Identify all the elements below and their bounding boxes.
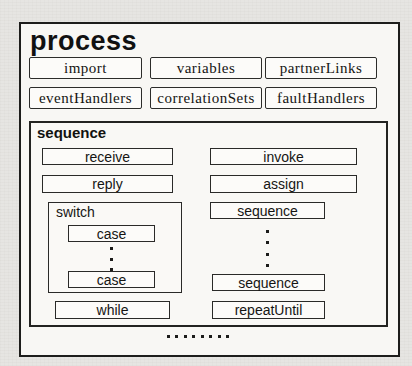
sequence-container: sequence receive invoke reply assign swi… [29, 121, 388, 327]
repeatuntil-box: repeatUntil [212, 301, 325, 319]
switch-label: switch [56, 204, 95, 221]
case-box-top: case [68, 225, 155, 242]
process-container: process import variables partnerLinks ev… [19, 22, 400, 357]
process-title: process [30, 24, 137, 57]
horizontal-ellipsis-icon [167, 334, 229, 339]
while-box: while [55, 301, 170, 319]
inner-sequence-box-top: sequence [210, 202, 325, 219]
assign-box: assign [210, 175, 357, 193]
sequence-label: sequence [37, 124, 106, 142]
switch-container: switch case case [48, 202, 182, 293]
vertical-ellipsis-icon [210, 230, 325, 267]
correlationsets-box: correlationSets [150, 87, 262, 109]
eventhandlers-box: eventHandlers [29, 87, 142, 109]
faulthandlers-box: faultHandlers [265, 87, 377, 109]
case-box-bottom: case [68, 271, 155, 288]
invoke-box: invoke [210, 148, 357, 165]
import-box: import [29, 57, 142, 79]
figure-canvas: process import variables partnerLinks ev… [0, 0, 412, 366]
variables-box: variables [150, 57, 262, 79]
vertical-ellipsis-icon [68, 247, 155, 271]
partnerlinks-box: partnerLinks [265, 57, 377, 79]
reply-box: reply [42, 175, 173, 193]
receive-box: receive [42, 148, 173, 165]
inner-sequence-box-bottom: sequence [212, 274, 325, 291]
